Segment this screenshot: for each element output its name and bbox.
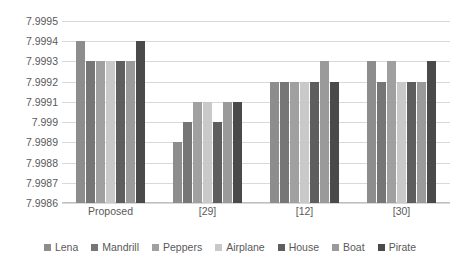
bar — [320, 61, 329, 203]
bar — [173, 142, 182, 203]
legend-label: Mandrill — [102, 241, 139, 253]
y-axis-tick-label: 7.999 — [0, 116, 58, 128]
bar — [387, 61, 396, 203]
bar — [223, 102, 232, 203]
legend-item[interactable]: Peppers — [152, 241, 202, 253]
legend-swatch-icon — [44, 244, 51, 251]
legend-item[interactable]: Mandrill — [91, 241, 139, 253]
y-axis: 7.99957.99947.99937.99927.99917.9997.998… — [0, 21, 58, 203]
bar — [233, 102, 242, 203]
bar — [280, 82, 289, 203]
legend-swatch-icon — [378, 244, 385, 251]
bar-group — [256, 21, 353, 203]
bar — [96, 61, 105, 203]
legend-swatch-icon — [215, 244, 222, 251]
legend-label: Boat — [343, 241, 365, 253]
legend-swatch-icon — [332, 244, 339, 251]
x-axis-tick-label: [12] — [296, 205, 314, 217]
gridline — [62, 203, 450, 204]
legend-item[interactable]: Airplane — [215, 241, 265, 253]
legend-label: Pirate — [389, 241, 416, 253]
legend-swatch-icon — [278, 244, 285, 251]
y-axis-tick-label: 7.9988 — [0, 157, 58, 169]
bar — [397, 82, 406, 203]
bar — [203, 102, 212, 203]
bar-group — [353, 21, 450, 203]
bar — [310, 82, 319, 203]
y-axis-tick-label: 7.9991 — [0, 96, 58, 108]
x-axis: Proposed[29][12][30] — [62, 205, 450, 225]
bar — [407, 82, 416, 203]
bar — [270, 82, 279, 203]
bar — [76, 41, 85, 203]
y-axis-tick-label: 7.9986 — [0, 197, 58, 209]
bar-group — [62, 21, 159, 203]
bar — [427, 61, 436, 203]
legend-item[interactable]: Lena — [44, 241, 78, 253]
bar — [193, 102, 202, 203]
x-axis-tick-label: [29] — [199, 205, 217, 217]
bar — [126, 61, 135, 203]
legend-item[interactable]: Pirate — [378, 241, 416, 253]
bar — [290, 82, 299, 203]
bar — [213, 122, 222, 203]
chart-legend: LenaMandrillPeppersAirplaneHouseBoatPira… — [0, 241, 460, 253]
y-axis-tick-label: 7.9987 — [0, 177, 58, 189]
bar — [136, 41, 145, 203]
bar-chart: 7.99957.99947.99937.99927.99917.9997.998… — [0, 0, 460, 270]
bar — [330, 82, 339, 203]
y-axis-tick-label: 7.9994 — [0, 35, 58, 47]
legend-item[interactable]: House — [278, 241, 319, 253]
legend-item[interactable]: Boat — [332, 241, 365, 253]
legend-label: Peppers — [163, 241, 202, 253]
bar — [367, 61, 376, 203]
legend-swatch-icon — [152, 244, 159, 251]
bar — [300, 82, 309, 203]
legend-label: Airplane — [226, 241, 265, 253]
y-axis-tick-label: 7.9989 — [0, 136, 58, 148]
x-axis-tick-label: [30] — [393, 205, 411, 217]
bar — [417, 82, 426, 203]
plot-area — [62, 21, 450, 203]
x-axis-tick-label: Proposed — [88, 205, 133, 217]
bar — [106, 61, 115, 203]
legend-swatch-icon — [91, 244, 98, 251]
y-axis-tick-label: 7.9993 — [0, 55, 58, 67]
bar — [116, 61, 125, 203]
bar-group — [159, 21, 256, 203]
bar — [86, 61, 95, 203]
legend-label: House — [289, 241, 319, 253]
y-axis-tick-label: 7.9992 — [0, 76, 58, 88]
bar — [183, 122, 192, 203]
bar — [377, 82, 386, 203]
legend-label: Lena — [55, 241, 78, 253]
y-axis-tick-label: 7.9995 — [0, 15, 58, 27]
